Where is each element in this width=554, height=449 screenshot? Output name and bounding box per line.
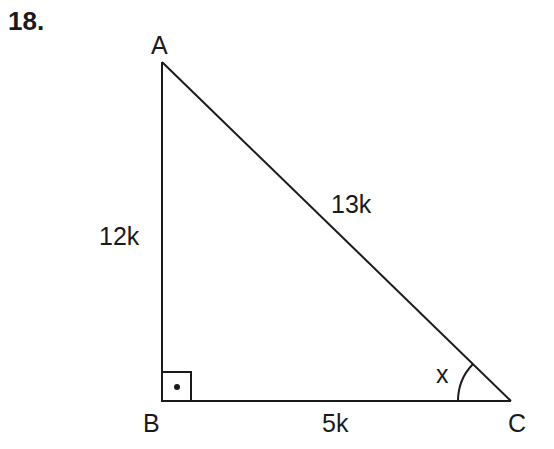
- right-angle-dot: [174, 384, 180, 390]
- angle-arc-x: [458, 364, 473, 401]
- vertex-label-a: A: [151, 31, 168, 59]
- side-label-ab: 12k: [99, 222, 140, 250]
- vertex-label-c: C: [508, 409, 526, 437]
- angle-label-x: x: [436, 360, 449, 388]
- vertex-label-b: B: [143, 409, 160, 437]
- side-label-ac: 13k: [331, 190, 372, 218]
- side-label-bc: 5k: [322, 409, 349, 437]
- triangle-diagram: A B C 12k 13k 5k x: [0, 0, 554, 449]
- side-ac: [162, 62, 511, 401]
